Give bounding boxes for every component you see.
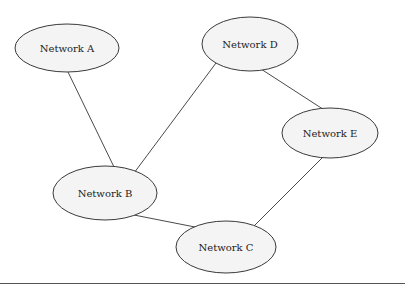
edge-e-c — [252, 156, 324, 228]
bottom-rule — [0, 283, 405, 284]
node-label: Network E — [303, 128, 358, 139]
nodes-group: Network ANetwork DNetwork ENetwork BNetw… — [15, 17, 378, 273]
node-network-b: Network B — [53, 166, 157, 220]
edge-d-b — [134, 63, 216, 173]
node-label: Network D — [222, 39, 277, 50]
node-network-a: Network A — [15, 24, 119, 72]
node-network-d: Network D — [202, 17, 298, 71]
node-label: Network C — [199, 242, 254, 253]
node-network-e: Network E — [282, 108, 378, 158]
network-diagram: Network ANetwork DNetwork ENetwork BNetw… — [0, 0, 405, 287]
node-label: Network A — [40, 43, 95, 54]
edge-a-b — [68, 72, 114, 167]
node-label: Network B — [78, 188, 133, 199]
node-network-c: Network C — [176, 221, 276, 273]
edge-b-c — [134, 215, 200, 228]
